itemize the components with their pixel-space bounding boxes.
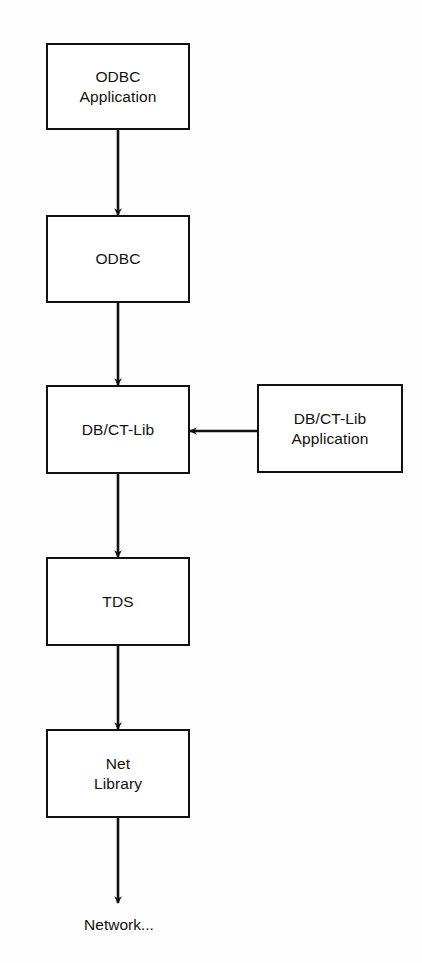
- node-odbc-application[interactable]: ODBC Application: [46, 43, 190, 130]
- node-odbc[interactable]: ODBC: [46, 215, 190, 303]
- node-db-ct-lib-application[interactable]: DB/CT-Lib Application: [257, 384, 403, 473]
- node-label-odbc-application: ODBC Application: [80, 67, 157, 107]
- node-tds[interactable]: TDS: [46, 557, 190, 646]
- label-network-label: Network...: [60, 915, 178, 935]
- node-label-db-ct-lib-application: DB/CT-Lib Application: [292, 409, 369, 449]
- node-label-db-ct-lib: DB/CT-Lib: [82, 420, 154, 440]
- edge-layer: [0, 0, 422, 963]
- diagram-canvas: ODBC ApplicationODBCDB/CT-LibDB/CT-Lib A…: [0, 0, 422, 963]
- node-label-tds: TDS: [102, 592, 133, 612]
- node-label-odbc: ODBC: [95, 249, 140, 269]
- node-net-library[interactable]: Net Library: [46, 729, 190, 818]
- node-label-net-library: Net Library: [94, 754, 142, 794]
- node-db-ct-lib[interactable]: DB/CT-Lib: [46, 385, 190, 474]
